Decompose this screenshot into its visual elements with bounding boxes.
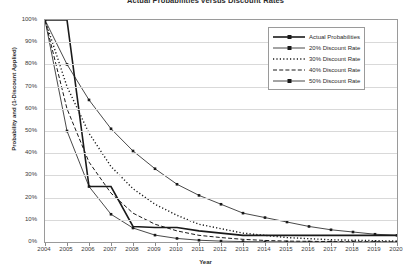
legend-key-icon (272, 65, 306, 75)
legend-item[interactable]: Actual Probabilities (272, 31, 360, 42)
y-axis-tick-labels: 0%10%20%30%40%50%60%70%80%90%100% (0, 19, 40, 243)
legend-key-icon (272, 32, 306, 42)
y-tick-label: 60% (1, 105, 37, 111)
legend-label: Actual Probabilities (309, 32, 360, 42)
x-axis-title: Year (0, 259, 411, 265)
y-tick-label: 20% (1, 194, 37, 200)
legend-key-icon (272, 76, 306, 86)
legend-key-icon (272, 54, 306, 64)
y-tick-label: 100% (1, 16, 37, 22)
gridline (45, 131, 397, 132)
legend-item[interactable]: 30% Discount Rate (272, 53, 360, 64)
y-tick-label: 10% (1, 216, 37, 222)
legend-key-icon (272, 43, 306, 53)
legend-label: 40% Discount Rate (309, 65, 360, 75)
y-tick-label: 50% (1, 127, 37, 133)
legend-label: 50% Discount Rate (309, 76, 360, 86)
gridline (45, 153, 397, 154)
chart-legend: Actual Probabilities20% Discount Rate30%… (268, 27, 365, 90)
legend-label: 30% Discount Rate (309, 54, 360, 64)
legend-item[interactable]: 50% Discount Rate (272, 75, 360, 86)
legend-label: 20% Discount Rate (309, 43, 360, 53)
y-tick-label: 30% (1, 171, 37, 177)
y-tick-label: 40% (1, 149, 37, 155)
gridline (45, 198, 397, 199)
chart-title: Actual Probabilities versus Discount Rat… (0, 0, 411, 5)
legend-item[interactable]: 20% Discount Rate (272, 42, 360, 53)
y-tick-label: 80% (1, 60, 37, 66)
gridline (45, 109, 397, 110)
gridline (45, 175, 397, 176)
x-axis-tick-labels: 2004200520062007200820092010201120122013… (44, 246, 398, 258)
chart-container: Actual Probabilities versus Discount Rat… (0, 0, 411, 277)
y-tick-label: 0% (1, 238, 37, 244)
x-tick-label: 2020 (382, 246, 410, 252)
legend-item[interactable]: 40% Discount Rate (272, 64, 360, 75)
y-tick-label: 90% (1, 38, 37, 44)
y-tick-label: 70% (1, 83, 37, 89)
gridline (45, 220, 397, 221)
